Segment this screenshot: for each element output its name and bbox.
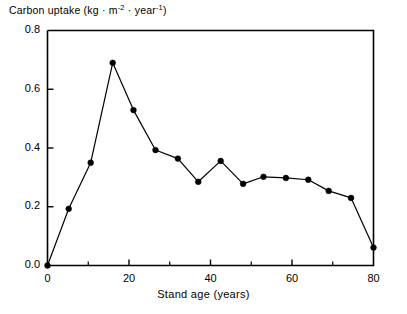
data-point	[45, 263, 51, 269]
data-point	[195, 179, 201, 185]
data-point	[240, 181, 246, 187]
chart-figure: Carbon uptake (kg · m-2 · year-1) Stand …	[0, 0, 407, 314]
data-series-line	[48, 63, 374, 266]
y-tick-label: 0.8	[6, 23, 40, 35]
data-point	[131, 107, 137, 113]
y-tick-label: 0.4	[6, 141, 40, 153]
data-point	[66, 206, 72, 212]
y-tick-label: 0.2	[6, 199, 40, 211]
data-point	[283, 175, 289, 181]
plot-area	[0, 0, 407, 314]
x-tick-label: 0	[33, 272, 63, 284]
data-point	[175, 156, 181, 162]
axis-ticks	[48, 89, 333, 265]
data-point	[218, 158, 224, 164]
data-point	[326, 188, 332, 194]
data-point	[371, 245, 377, 251]
data-point	[348, 195, 354, 201]
x-tick-label: 40	[196, 272, 226, 284]
data-point	[153, 147, 159, 153]
y-tick-label: 0.0	[6, 258, 40, 270]
data-point	[88, 160, 94, 166]
y-tick-label: 0.6	[6, 82, 40, 94]
x-tick-label: 20	[114, 272, 144, 284]
data-point	[110, 60, 116, 66]
x-tick-label: 60	[277, 272, 307, 284]
data-point-markers	[45, 60, 377, 268]
x-tick-label: 80	[359, 272, 389, 284]
data-point	[261, 174, 267, 180]
axis-frame	[48, 31, 374, 266]
data-point	[305, 177, 311, 183]
